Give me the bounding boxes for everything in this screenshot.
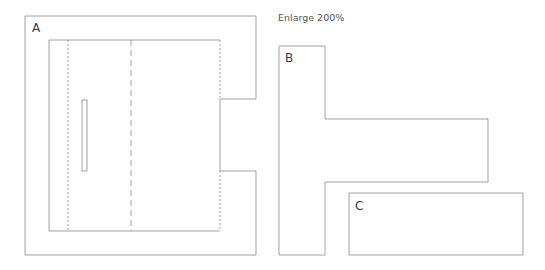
piece-b-label: B (285, 51, 293, 65)
piece-c-label: C (355, 199, 363, 213)
pattern-diagram (0, 0, 545, 270)
piece-c-outline (349, 193, 523, 255)
piece-a-inner (49, 40, 220, 231)
piece-b-outline (279, 46, 488, 255)
piece-a-outline (25, 16, 256, 255)
piece-a-label: A (32, 21, 40, 35)
slot (82, 100, 87, 171)
